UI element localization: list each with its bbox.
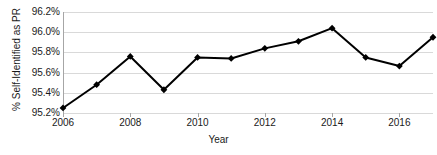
x-axis-tick-label: 2016	[388, 117, 410, 129]
data-series-line	[63, 12, 433, 113]
y-axis-tick-label: 96.2%	[32, 7, 60, 17]
y-axis-tick-labels: 95.2%95.4%95.6%95.8%96.0%96.2%	[20, 0, 60, 155]
line-chart: % Self-Identified as PR 95.2%95.4%95.6%9…	[0, 0, 437, 155]
series-polyline	[63, 28, 433, 108]
y-axis-tick-label: 95.6%	[32, 68, 60, 78]
x-axis-tick-label: 2006	[52, 117, 74, 129]
x-axis-tick-label: 2014	[321, 117, 343, 129]
x-axis-tick-label: 2012	[254, 117, 276, 129]
y-axis-tick-label: 95.4%	[32, 88, 60, 98]
x-axis-tick-label: 2010	[186, 117, 208, 129]
data-point-marker	[228, 55, 235, 62]
x-axis-tick-label: 2008	[119, 117, 141, 129]
x-axis-tick-labels: 200620082010201220142016	[0, 117, 437, 131]
data-point-marker	[295, 38, 302, 45]
plot-area	[63, 12, 433, 113]
data-point-marker	[261, 45, 268, 52]
x-axis-title: Year	[0, 134, 437, 145]
y-axis-tick-label: 96.0%	[32, 27, 60, 37]
y-axis-tick-label: 95.8%	[32, 47, 60, 57]
